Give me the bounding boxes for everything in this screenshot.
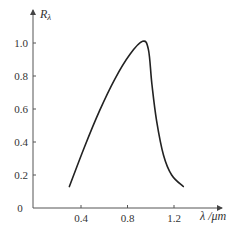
- x-axis-label: λ /μm: [199, 209, 227, 223]
- y-tick-label: 0.8: [14, 70, 28, 82]
- reflectance-curve: [69, 41, 183, 186]
- x-tick-label: 0.4: [74, 212, 88, 224]
- origin-label: 0: [17, 202, 23, 214]
- y-tick-label: 0.6: [14, 103, 28, 115]
- y-tick-label: 1.0: [14, 37, 28, 49]
- y-tick-label: 0.2: [14, 169, 28, 181]
- x-tick-label: 1.2: [167, 212, 181, 224]
- y-axis-label: Rλ: [39, 7, 51, 22]
- y-tick-label: 0.4: [14, 136, 28, 148]
- x-tick-label: 0.8: [121, 212, 135, 224]
- chart: 0.20.40.60.81.0 0.40.81.2 0 Rλ λ /μm: [0, 0, 247, 235]
- axes: [33, 10, 222, 208]
